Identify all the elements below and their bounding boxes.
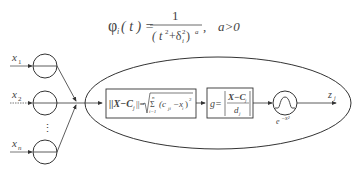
formula-lhs-sub: i bbox=[117, 27, 119, 36]
g-den-sub: j bbox=[238, 111, 241, 116]
formula-den-open: ( t bbox=[152, 29, 163, 43]
norm-sub: j bbox=[132, 105, 135, 111]
gaussian-curve-icon bbox=[275, 97, 295, 108]
g-label: g= bbox=[210, 98, 222, 109]
input-label-n: x bbox=[11, 137, 17, 149]
output-label-sub: j bbox=[333, 95, 336, 101]
formula-lhs-arg: ( t ) = bbox=[121, 19, 154, 35]
formula-comma: , bbox=[203, 19, 206, 34]
basis-function-formula: φ i ( t ) = 1 ( t 2 +δ i 2 ) a , a>0 bbox=[108, 8, 240, 45]
activation-sup: −x² bbox=[281, 115, 290, 121]
term-sub2: i bbox=[182, 106, 184, 111]
distance-box: ||X−C j ||= n Σ i=1 (c ji −x i ) 2 bbox=[106, 89, 196, 118]
formula-lhs: φ bbox=[108, 17, 117, 35]
sum-symbol: Σ bbox=[150, 100, 155, 109]
norm-text: ||X−C bbox=[109, 98, 133, 109]
input-label-1: x bbox=[11, 51, 17, 63]
formula-numerator: 1 bbox=[172, 8, 179, 23]
gaussian-activation: e −x² bbox=[273, 91, 297, 126]
input-label-2: x bbox=[11, 88, 17, 100]
formula-den-exp: a bbox=[195, 28, 199, 36]
input-label-1-sub: 1 bbox=[18, 58, 22, 66]
formula-den-plus: +δ bbox=[169, 29, 182, 43]
input-layer: x 1 x 2 ⋮ x n bbox=[10, 51, 102, 164]
output-label: z bbox=[327, 89, 332, 100]
formula-den-close: ) bbox=[186, 29, 190, 43]
normalize-box: g= X−C j d j bbox=[207, 88, 253, 118]
rbf-network-diagram: φ i ( t ) = 1 ( t 2 +δ i 2 ) a , a>0 x 1… bbox=[0, 0, 360, 173]
g-num: X−C bbox=[227, 92, 246, 102]
formula-condition: a>0 bbox=[218, 19, 240, 34]
term-open: (c bbox=[159, 99, 166, 109]
term-close: ) bbox=[185, 99, 188, 109]
input-label-n-sub: n bbox=[18, 144, 22, 152]
ellipsis: ⋮ bbox=[42, 122, 53, 134]
input-label-2-sub: 2 bbox=[18, 95, 22, 103]
term-sub: ji bbox=[167, 106, 171, 111]
connection-n bbox=[57, 105, 76, 152]
connection-1 bbox=[57, 66, 76, 101]
g-num-sub: j bbox=[244, 98, 247, 103]
sum-bottom: i=1 bbox=[149, 109, 156, 114]
activation-label: e bbox=[276, 117, 280, 126]
term-sup: 2 bbox=[189, 97, 192, 102]
formula-den-sub-delta: i bbox=[182, 37, 184, 45]
